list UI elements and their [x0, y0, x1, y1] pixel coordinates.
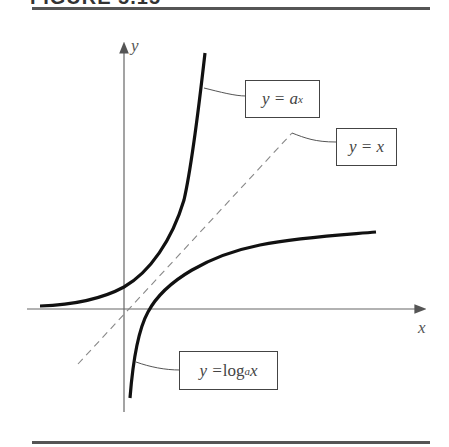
log-label-fn: log	[223, 361, 245, 381]
exp-label-text: y = a	[262, 89, 298, 109]
exponential-curve	[40, 53, 205, 306]
log-label-lhs: y =	[199, 361, 222, 381]
bottom-rule	[32, 441, 430, 444]
log-label: y = loga x	[179, 351, 278, 390]
exp-label-exponent: x	[298, 93, 303, 105]
x-axis-label: x	[418, 318, 426, 338]
log-label-arg: x	[250, 361, 258, 381]
y-axis-label: y	[131, 36, 139, 56]
identity-leader	[292, 133, 336, 142]
exp-leader	[204, 88, 246, 96]
exp-label: y = ax	[245, 80, 320, 118]
identity-label: y = x	[336, 128, 397, 166]
log-leader	[136, 362, 180, 370]
identity-line	[78, 133, 292, 364]
identity-label-text: y = x	[349, 137, 384, 157]
